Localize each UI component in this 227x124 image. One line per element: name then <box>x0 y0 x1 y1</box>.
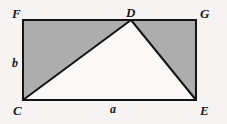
geometry-figure: F D G E C b a <box>0 0 227 124</box>
vertex-label-f: F <box>12 7 21 20</box>
vertex-label-d: D <box>126 6 135 19</box>
vertex-label-g: G <box>200 7 209 20</box>
vertex-label-c: C <box>13 104 22 117</box>
side-label-b: b <box>12 57 18 69</box>
side-label-a: a <box>110 103 116 115</box>
vertex-label-e: E <box>200 104 209 117</box>
